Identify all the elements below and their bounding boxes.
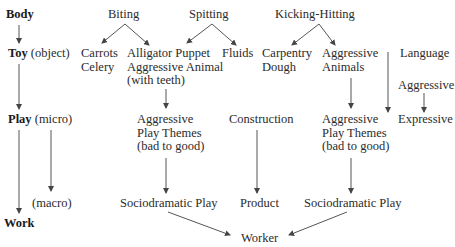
arrow-spitting-to-fluids (212, 24, 236, 45)
level-toy: Toy (object) (8, 47, 70, 61)
play-expressive: Expressive (398, 113, 453, 127)
toy-aggressive-animals: Aggressive Animals (322, 47, 378, 74)
outcome-product: Product (240, 197, 279, 211)
toy-fluids: Fluids (222, 47, 253, 61)
category-biting: Biting (108, 8, 139, 22)
arrow-biting-to-carrots (102, 24, 125, 43)
toy-alligator-puppet: Alligator Puppet Aggressive Animal (with… (127, 47, 223, 88)
toy-language-aggressive: Aggressive (398, 79, 454, 93)
final-worker: Worker (241, 232, 278, 246)
category-kicking-hitting: Kicking-Hitting (275, 8, 355, 22)
level-play: Play (micro) (8, 113, 72, 127)
arrow-socio-right-to-worker (289, 212, 347, 235)
arrow-spitting-to-alligator (187, 24, 212, 43)
arrow-kicking-to-animals (319, 24, 335, 45)
category-spitting: Spitting (189, 8, 229, 22)
arrow-socio-left-to-worker (168, 212, 230, 235)
toy-carpentry-dough: Carpentry Dough (262, 47, 312, 74)
outcome-sociodramatic-right: Sociodramatic Play (304, 197, 402, 211)
play-themes-right: Aggressive Play Themes (bad to good) (322, 113, 389, 154)
level-macro: (macro) (32, 197, 72, 211)
arrow-biting-to-alligator (125, 24, 149, 45)
toy-carrots-celery: Carrots Celery (81, 47, 118, 74)
aggression-development-diagram: Body Toy (object) Play (micro) (macro) W… (0, 0, 455, 247)
play-themes-left: Aggressive Play Themes (bad to good) (137, 113, 204, 154)
level-body: Body (6, 8, 34, 22)
outcome-sociodramatic-left: Sociodramatic Play (120, 197, 218, 211)
toy-language: Language (400, 47, 449, 61)
arrow-kicking-to-carpentry (292, 24, 319, 45)
level-work: Work (4, 217, 35, 231)
play-construction: Construction (229, 113, 294, 127)
